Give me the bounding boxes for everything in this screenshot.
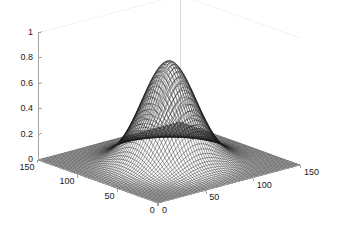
y-tick-label-100: 100 <box>59 177 74 186</box>
surface-plot-3d <box>0 0 340 234</box>
x-tick-label-150: 150 <box>304 168 319 177</box>
y-tick-label-50: 50 <box>105 192 115 201</box>
z-tick-label-0_8: 0.8 <box>20 53 33 62</box>
x-tick-label-0: 0 <box>162 206 167 215</box>
z-tick-label-1: 1 <box>28 28 33 37</box>
y-tick-label-150: 150 <box>19 163 34 172</box>
y-tick-label-0: 0 <box>150 206 155 215</box>
x-tick-label-100: 100 <box>257 181 272 190</box>
z-tick-label-0_6: 0.6 <box>20 79 33 88</box>
figure-canvas: 10.80.60.40.20 150100500 050100150 <box>0 0 340 234</box>
x-tick-label-50: 50 <box>209 193 219 202</box>
z-tick-label-0_4: 0.4 <box>20 104 33 113</box>
z-tick-label-0_2: 0.2 <box>20 130 33 139</box>
